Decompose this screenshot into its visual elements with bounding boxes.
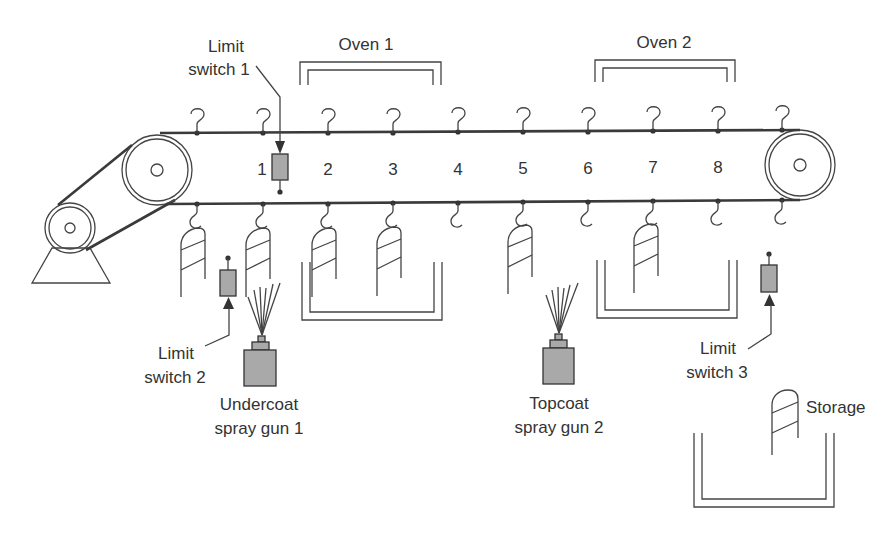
station-number: 3	[388, 160, 397, 179]
part-icon	[246, 228, 270, 297]
station-numbers: 1 2 3 4 5 6 7 8	[257, 158, 722, 179]
hook-icon	[451, 200, 462, 227]
oven-1-label: Oven 1	[339, 35, 394, 54]
switch-icon	[761, 265, 777, 292]
hook-icon	[646, 198, 657, 225]
station-number: 4	[453, 160, 462, 179]
spray-icon	[546, 283, 578, 333]
part-icon	[181, 228, 205, 297]
svg-text:Limit: Limit	[700, 339, 736, 358]
hanging-parts	[181, 224, 658, 297]
hook-icon	[776, 106, 789, 133]
storage: Storage	[694, 390, 866, 507]
limit-switch-2: Limit switch 2	[144, 255, 236, 387]
limit-switch-3: Limit switch 3	[686, 251, 777, 382]
spray-icon	[248, 283, 280, 335]
switch-icon	[220, 270, 236, 296]
spray-gun-icon	[543, 348, 574, 384]
arrow-icon	[764, 294, 775, 306]
spray-gun-icon	[244, 350, 276, 386]
part-icon	[772, 390, 798, 455]
switch-icon	[272, 154, 288, 180]
svg-text:Limit: Limit	[208, 37, 244, 56]
right-pulley	[765, 130, 835, 200]
part-icon	[634, 224, 658, 293]
svg-text:Limit: Limit	[158, 344, 194, 363]
hook-icon	[256, 201, 267, 228]
hook-icon	[516, 199, 527, 226]
part-icon	[312, 228, 336, 297]
conveyor-belt	[160, 130, 800, 204]
arrow-icon	[223, 297, 234, 309]
svg-text:switch 2: switch 2	[144, 368, 205, 387]
topcoat-spray-gun: Topcoat spray gun 2	[515, 283, 604, 437]
station-number: 6	[583, 159, 592, 178]
hook-icon	[321, 201, 332, 228]
arrow-icon	[275, 141, 285, 154]
part-icon	[508, 225, 532, 294]
hook-icon	[386, 200, 397, 227]
hook-icon	[581, 199, 592, 226]
oven-1: Oven 1	[300, 35, 442, 320]
station-number: 7	[648, 158, 657, 177]
part-icon	[377, 227, 401, 296]
station-number: 2	[323, 160, 332, 179]
station-number: 1	[257, 160, 266, 179]
svg-text:switch 1: switch 1	[188, 60, 249, 79]
left-pulley	[122, 135, 192, 205]
station-number: 8	[713, 158, 722, 177]
drive-belt	[58, 145, 175, 250]
oven-2-label: Oven 2	[637, 33, 692, 52]
svg-text:Topcoat: Topcoat	[529, 394, 589, 413]
svg-text:switch 3: switch 3	[686, 363, 747, 382]
svg-text:spray gun 2: spray gun 2	[515, 418, 604, 437]
svg-text:spray gun 1: spray gun 1	[215, 419, 304, 438]
hook-icon	[711, 198, 722, 225]
station-number: 5	[518, 159, 527, 178]
storage-label: Storage	[806, 398, 866, 417]
svg-text:Undercoat: Undercoat	[220, 395, 299, 414]
hook-icon	[190, 201, 201, 228]
conveyor-diagram: 1 2 3 4 5 6 7 8 Oven 1 Oven 2 Limit swit…	[0, 0, 892, 539]
